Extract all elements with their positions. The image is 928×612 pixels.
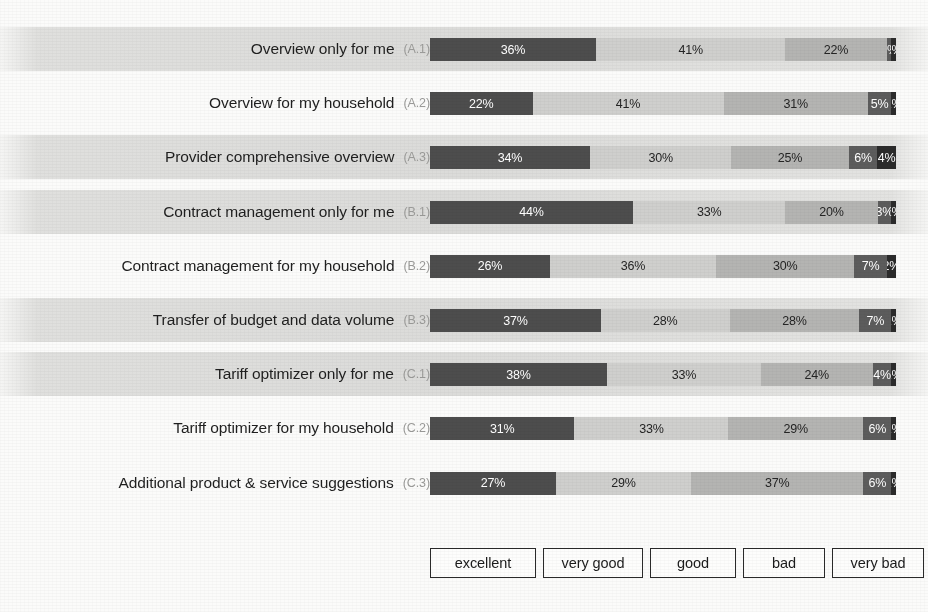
- bar-segment-excellent: 44%: [430, 201, 633, 224]
- bar-segment-bad: 5%: [868, 92, 891, 115]
- stacked-bar: 44%33%20%3%1%: [430, 201, 896, 224]
- bar-segment-value: 33%: [672, 368, 696, 382]
- row-label-code: (A.2): [403, 96, 430, 110]
- bar-segment-value: 1%: [891, 314, 896, 328]
- bar-segment-value: 29%: [611, 476, 635, 490]
- bar-segment-bad: 4%: [873, 363, 892, 386]
- row-label-text: Tariff optimizer for my household: [173, 419, 393, 437]
- bar-segment-value: 5%: [871, 97, 889, 111]
- stacked-bar: 38%33%24%4%1%: [430, 363, 896, 386]
- bar-segment-value: 37%: [765, 476, 789, 490]
- row-label-text: Provider comprehensive overview: [165, 148, 395, 166]
- row-label-text: Transfer of budget and data volume: [153, 311, 395, 329]
- bar-segment-value: 6%: [854, 151, 872, 165]
- bar-segment-very-good: 36%: [550, 255, 716, 278]
- bar-segment-very-bad: 1%: [891, 201, 896, 224]
- row-label-code: (B.2): [403, 259, 430, 273]
- bar-segment-very-bad: 1%: [891, 472, 896, 495]
- bar-segment-good: 20%: [785, 201, 877, 224]
- bar-segment-value: 33%: [639, 422, 663, 436]
- legend-item-excellent[interactable]: excellent: [430, 548, 536, 578]
- bar-segment-bad: 6%: [863, 472, 891, 495]
- bar-segment-value: 6%: [868, 476, 886, 490]
- row-label-code: (B.1): [403, 205, 430, 219]
- bar-segment-bad: 7%: [859, 309, 891, 332]
- bar-segment-good: 31%: [724, 92, 868, 115]
- row-label: Tariff optimizer for my household(C.2): [173, 401, 430, 455]
- bar-segment-bad: 3%: [878, 201, 892, 224]
- bar-segment-value: 24%: [805, 368, 829, 382]
- bar-segment-value: 22%: [469, 97, 493, 111]
- row-label: Tariff optimizer only for me(C.1): [215, 347, 430, 401]
- stacked-bar: 26%36%30%7%2%: [430, 255, 896, 278]
- row-label: Overview only for me(A.1): [251, 22, 430, 76]
- bar-segment-value: 44%: [519, 205, 543, 219]
- stacked-bar: 22%41%31%5%1%: [430, 92, 896, 115]
- bar-segment-very-good: 29%: [556, 472, 691, 495]
- bar-segment-value: 25%: [778, 151, 802, 165]
- bar-segment-value: 20%: [819, 205, 843, 219]
- row-label-code: (C.2): [403, 421, 430, 435]
- bar-segment-value: 3%: [878, 205, 892, 219]
- row-label-text: Overview only for me: [251, 40, 395, 58]
- bar-segment-value: 1%: [891, 422, 896, 436]
- row-label-text: Contract management only for me: [163, 203, 394, 221]
- bar-segment-value: 31%: [784, 97, 808, 111]
- bar-segment-very-bad: 1%: [891, 417, 896, 440]
- row-label-text: Tariff optimizer only for me: [215, 365, 394, 383]
- chart-row: Overview for my household(A.2)22%41%31%5…: [0, 76, 928, 130]
- bar-segment-value: 36%: [621, 259, 645, 273]
- chart-row: Overview only for me(A.1)36%41%22%1%1%: [0, 22, 928, 76]
- bar-segment-value: 6%: [868, 422, 886, 436]
- bar-segment-bad: 7%: [854, 255, 886, 278]
- chart-row: Additional product & service suggestions…: [0, 456, 928, 510]
- bar-segment-excellent: 26%: [430, 255, 550, 278]
- bar-segment-very-bad: 1%: [891, 309, 896, 332]
- row-label-text: Additional product & service suggestions: [119, 474, 394, 492]
- bar-segment-excellent: 31%: [430, 417, 574, 440]
- chart-row: Transfer of budget and data volume(B.3)3…: [0, 293, 928, 347]
- bar-segment-very-bad: 1%: [891, 363, 896, 386]
- bar-segment-good: 24%: [761, 363, 873, 386]
- bar-segment-very-good: 41%: [533, 92, 724, 115]
- bar-segment-value: 29%: [784, 422, 808, 436]
- bar-segment-very-bad: 4%: [877, 146, 896, 169]
- bar-segment-excellent: 34%: [430, 146, 590, 169]
- bar-segment-excellent: 36%: [430, 38, 596, 61]
- bar-segment-value: 7%: [866, 314, 884, 328]
- bar-segment-value: 28%: [653, 314, 677, 328]
- bar-segment-excellent: 22%: [430, 92, 533, 115]
- bar-segment-value: 2%: [887, 259, 896, 273]
- bar-segment-value: 38%: [506, 368, 530, 382]
- bar-segment-value: 34%: [498, 151, 522, 165]
- bar-segment-value: 30%: [773, 259, 797, 273]
- bar-segment-good: 22%: [785, 38, 887, 61]
- legend-item-bad[interactable]: bad: [743, 548, 825, 578]
- chart-row: Tariff optimizer for my household(C.2)31…: [0, 401, 928, 455]
- row-label-code: (A.1): [403, 42, 430, 56]
- legend-item-very-bad[interactable]: very bad: [832, 548, 924, 578]
- bar-segment-value: 28%: [782, 314, 806, 328]
- stacked-bar: 37%28%28%7%1%: [430, 309, 896, 332]
- stacked-bar: 34%30%25%6%4%: [430, 146, 896, 169]
- row-label-text: Overview for my household: [209, 94, 394, 112]
- stacked-bar: 27%29%37%6%1%: [430, 472, 896, 495]
- bar-segment-very-good: 33%: [633, 201, 785, 224]
- bar-segment-value: 31%: [490, 422, 514, 436]
- stacked-bar: 31%33%29%6%1%: [430, 417, 896, 440]
- row-label-text: Contract management for my household: [121, 257, 394, 275]
- bar-segment-value: 22%: [824, 43, 848, 57]
- bar-segment-good: 25%: [731, 146, 849, 169]
- bar-segment-value: 4%: [873, 368, 891, 382]
- bar-segment-value: 37%: [503, 314, 527, 328]
- legend-item-good[interactable]: good: [650, 548, 736, 578]
- row-label: Provider comprehensive overview(A.3): [165, 130, 430, 184]
- row-label-code: (C.1): [403, 367, 430, 381]
- bar-segment-good: 37%: [691, 472, 863, 495]
- bar-segment-excellent: 38%: [430, 363, 607, 386]
- bar-segment-value: 36%: [501, 43, 525, 57]
- bar-segment-very-good: 33%: [607, 363, 761, 386]
- legend-item-very-good[interactable]: very good: [543, 548, 643, 578]
- row-label-code: (B.3): [403, 313, 430, 327]
- bar-segment-good: 28%: [730, 309, 859, 332]
